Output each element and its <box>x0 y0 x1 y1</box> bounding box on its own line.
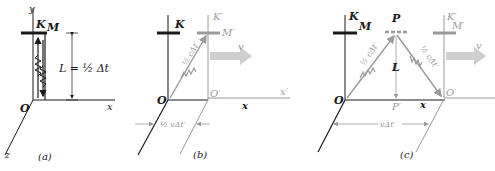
caption-b: (b) <box>193 149 207 160</box>
velocity-arrow <box>210 47 252 65</box>
wave-icon <box>360 68 375 78</box>
origin-prime-label: O′ <box>446 87 457 98</box>
mirror-m-prime-label: M′ <box>451 20 465 31</box>
x-prime-axis-label: x′ <box>280 86 289 97</box>
mirror-m-label: M <box>358 20 372 33</box>
path-down-label: ½ cΔt′ <box>418 44 440 70</box>
mirror-m-label: M <box>46 21 60 34</box>
x-axis-label: x <box>419 99 427 110</box>
displacement-label: vΔt′ <box>380 120 396 129</box>
velocity-label: v <box>476 40 482 51</box>
origin-prime-label: O′ <box>210 88 221 99</box>
light-clock-diagram: y K M O x z L = ½ Δt (a) K K′ M′ v O O′ … <box>0 0 495 171</box>
frame-k-label: K <box>35 18 46 31</box>
origin-label: O <box>334 94 344 107</box>
caption-c: (c) <box>400 149 414 160</box>
length-label: L = ½ Δt <box>58 62 110 75</box>
z-axis-label: z <box>4 150 10 160</box>
panel-b: K K′ M′ v O O′ x x′ ½ cΔt′ ½ vΔt′ (b) <box>135 11 290 160</box>
mirror-m-prime-label: M′ <box>221 27 235 38</box>
caption-a: (a) <box>38 151 52 162</box>
frame-k-prime-label: K′ <box>212 11 223 22</box>
x-axis-label: x <box>107 101 113 112</box>
panel-c: K M P K′ M′ v L O O′ P′ x ½ cΔt′ ½ cΔt′ … <box>318 10 495 160</box>
point-p-prime-label: P′ <box>391 101 402 112</box>
displacement-label: ½ vΔt′ <box>160 120 186 129</box>
origin-label: O <box>157 94 167 107</box>
path-up-label: ½ cΔt′ <box>358 41 380 67</box>
x-axis-label: x <box>241 100 249 111</box>
panel-a: y K M O x z L = ½ Δt (a) <box>4 3 115 162</box>
velocity-label: v <box>238 41 244 52</box>
frame-k-label: K <box>348 10 359 23</box>
length-label: L <box>391 61 400 74</box>
y-axis-label: y <box>28 3 35 14</box>
origin-label: O <box>20 102 30 115</box>
point-p-label: P <box>391 12 401 25</box>
frame-k-label: K <box>174 18 185 31</box>
